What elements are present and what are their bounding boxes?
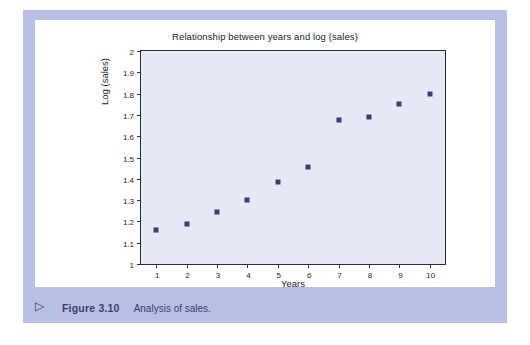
y-axis-tick: 2 bbox=[137, 51, 141, 52]
y-axis-tick-label: 1.5 bbox=[123, 154, 134, 163]
x-axis-tick: 6 bbox=[308, 264, 309, 268]
x-axis-tick: 3 bbox=[217, 264, 218, 268]
caption-triangle-icon bbox=[35, 303, 42, 313]
y-axis-tick-label: 1.1 bbox=[123, 239, 134, 248]
y-axis-tick-label: 1.9 bbox=[123, 69, 134, 78]
y-axis-tick: 1.4 bbox=[137, 179, 141, 180]
data-point bbox=[336, 118, 341, 123]
y-axis-label: Log (sales) bbox=[99, 58, 110, 105]
y-axis-tick: 1 bbox=[137, 264, 141, 265]
y-axis-tick: 1.8 bbox=[137, 94, 141, 95]
figure-caption: Figure 3.10 Analysis of sales. bbox=[35, 298, 495, 318]
y-axis-tick-label: 2 bbox=[130, 48, 134, 57]
x-axis-tick: 2 bbox=[187, 264, 188, 268]
x-axis-label: Years bbox=[140, 278, 446, 289]
y-axis-tick: 1.6 bbox=[137, 136, 141, 137]
y-axis-tick: 1.5 bbox=[137, 158, 141, 159]
x-axis-tick: 7 bbox=[339, 264, 340, 268]
data-point bbox=[215, 209, 220, 214]
y-axis-tick-label: 1.3 bbox=[123, 197, 134, 206]
x-axis-tick: 9 bbox=[399, 264, 400, 268]
data-point bbox=[306, 165, 311, 170]
x-axis-tick: 10 bbox=[430, 264, 431, 268]
y-axis-tick: 1.3 bbox=[137, 200, 141, 201]
y-axis-tick-label: 1.8 bbox=[123, 90, 134, 99]
data-point bbox=[245, 198, 250, 203]
y-axis-tick-label: 1.2 bbox=[123, 218, 134, 227]
y-axis-tick: 1.1 bbox=[137, 243, 141, 244]
y-axis-tick-label: 1.4 bbox=[123, 175, 134, 184]
figure-page: Relationship between years and log (sale… bbox=[0, 0, 530, 345]
y-axis-tick: 1.9 bbox=[137, 72, 141, 73]
data-point bbox=[367, 115, 372, 120]
data-point bbox=[427, 91, 432, 96]
y-axis-tick-label: 1.7 bbox=[123, 111, 134, 120]
y-axis-tick-label: 1.6 bbox=[123, 133, 134, 142]
x-axis-tick: 5 bbox=[278, 264, 279, 268]
plot-area: 11.11.21.31.41.51.61.71.81.9212345678910 bbox=[140, 50, 446, 265]
data-point bbox=[154, 227, 159, 232]
data-point bbox=[184, 221, 189, 226]
x-axis-tick: 1 bbox=[156, 264, 157, 268]
y-axis-tick: 1.7 bbox=[137, 115, 141, 116]
scatter-chart: Relationship between years and log (sale… bbox=[35, 20, 495, 287]
caption-text: Analysis of sales. bbox=[134, 303, 211, 314]
plot-inner bbox=[141, 51, 445, 264]
figure-frame: Relationship between years and log (sale… bbox=[23, 10, 507, 323]
x-axis-tick: 8 bbox=[369, 264, 370, 268]
data-point bbox=[275, 179, 280, 184]
data-point bbox=[397, 102, 402, 107]
chart-card: Relationship between years and log (sale… bbox=[35, 20, 495, 287]
caption-number: Figure 3.10 bbox=[62, 302, 120, 314]
y-axis-tick-label: 1 bbox=[130, 261, 134, 270]
x-axis-tick: 4 bbox=[247, 264, 248, 268]
chart-title: Relationship between years and log (sale… bbox=[35, 31, 495, 42]
y-axis-tick: 1.2 bbox=[137, 221, 141, 222]
